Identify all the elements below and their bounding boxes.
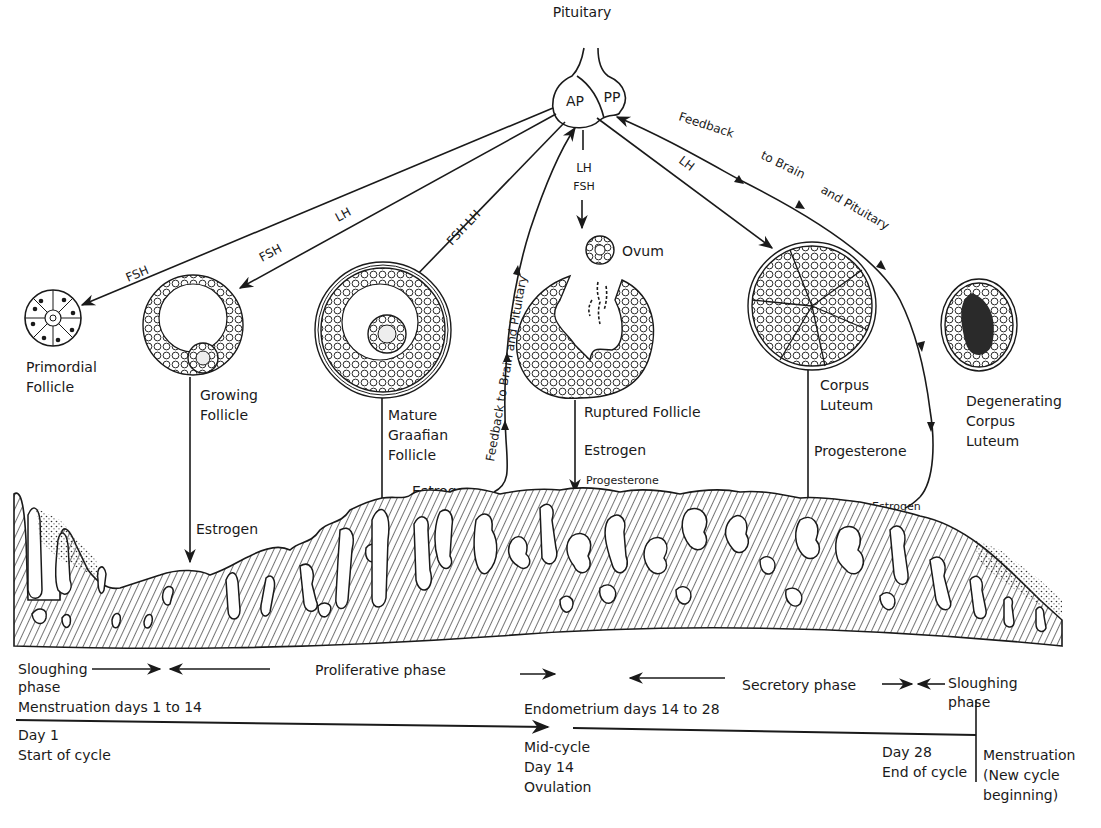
pituitary-gland: Pituitary AP PP bbox=[553, 4, 626, 128]
pituitary-label: Pituitary bbox=[553, 4, 611, 20]
sloughing-right-label-2: phase bbox=[948, 694, 990, 710]
sloughing-right-label-1: Sloughing bbox=[948, 675, 1018, 691]
endometrium-range-label: Endometrium days 14 to 28 bbox=[524, 701, 720, 717]
degenerating-corpus-luteum: Degenerating Corpus Luteum Estrogen bbox=[872, 279, 1062, 513]
mid-label-2: Day 14 bbox=[524, 759, 574, 775]
mature-label-3: Follicle bbox=[388, 447, 436, 463]
degenerating-label-3: Luteum bbox=[966, 433, 1019, 449]
corpus-luteum-label-1: Corpus bbox=[820, 377, 869, 393]
ruptured-label: Ruptured Follicle bbox=[584, 404, 701, 420]
fsh-lh-label-mature: FSH LH bbox=[444, 207, 483, 248]
corpus-luteum: Corpus Luteum Progesterone bbox=[748, 242, 907, 518]
new-cycle-label-2: (New cycle bbox=[983, 767, 1060, 783]
fsh-lh-arrow-to-growing bbox=[240, 114, 556, 288]
feedback-right-label-2: to Brain bbox=[759, 148, 808, 181]
growing-label-1: Growing bbox=[200, 387, 258, 403]
fsh-lh-arrow-to-mature bbox=[410, 122, 565, 282]
growing-estrogen-label: Estrogen bbox=[196, 521, 258, 537]
ruptured-progesterone-label: Progesterone bbox=[586, 474, 659, 487]
lh-label-growing: LH bbox=[333, 205, 353, 225]
primordial-label-1: Primordial bbox=[26, 359, 97, 375]
menstruation-range-label: Menstruation days 1 to 14 bbox=[18, 699, 202, 715]
growing-label-2: Follicle bbox=[200, 407, 248, 423]
fsh-label-ovum: FSH bbox=[573, 180, 594, 193]
primordial-label-2: Follicle bbox=[26, 379, 74, 395]
menstruation-timeline-arrow bbox=[16, 720, 548, 727]
end-label-1: Day 28 bbox=[882, 744, 932, 760]
growing-follicle: Growing Follicle Estrogen bbox=[143, 275, 258, 562]
sloughing-left-label-1: Sloughing bbox=[18, 661, 88, 677]
endometrium-band bbox=[14, 488, 1062, 648]
mature-graafian-follicle: Mature Graafian Follicle Estrogen bbox=[315, 262, 474, 527]
degenerating-label-1: Degenerating bbox=[966, 393, 1062, 409]
mature-label-1: Mature bbox=[388, 407, 437, 423]
mid-label-1: Mid-cycle bbox=[524, 739, 590, 755]
proliferative-label: Proliferative phase bbox=[315, 662, 446, 678]
start-label-1: Day 1 bbox=[18, 727, 59, 743]
endometrium-timeline-line bbox=[573, 728, 976, 735]
start-label-2: Start of cycle bbox=[18, 747, 111, 763]
menstrual-cycle-diagram: Pituitary AP PP FSH FSH LH FSH LH LH FSH… bbox=[0, 0, 1101, 828]
corpus-luteum-label-2: Luteum bbox=[820, 397, 873, 413]
degenerating-label-2: Corpus bbox=[966, 413, 1015, 429]
lh-label-ovum: LH bbox=[576, 161, 592, 175]
anterior-pituitary-label: AP bbox=[566, 93, 584, 109]
end-label-2: End of cycle bbox=[882, 764, 967, 780]
feedback-right-label-1: Feedback bbox=[677, 110, 736, 141]
secretory-label: Secretory phase bbox=[742, 677, 856, 693]
fsh-label-growing: FSH bbox=[257, 241, 284, 264]
new-cycle-label-1: Menstruation bbox=[983, 747, 1075, 763]
cycle-timeline: Menstruation days 1 to 14 Day 1 Start of… bbox=[16, 699, 1075, 803]
ovum-label: Ovum bbox=[622, 243, 664, 259]
sloughing-left-label-2: phase bbox=[18, 679, 60, 695]
new-cycle-label-3: beginning) bbox=[983, 787, 1058, 803]
primordial-follicle: Primordial Follicle bbox=[25, 290, 97, 395]
corpus-progesterone-label: Progesterone bbox=[814, 443, 907, 459]
ruptured-follicle: Ovum Ruptured Follicle Estrogen Progeste… bbox=[517, 236, 701, 492]
mature-label-2: Graafian bbox=[388, 427, 448, 443]
mid-label-3: Ovulation bbox=[524, 779, 591, 795]
lh-label-corpus: LH bbox=[676, 153, 697, 174]
posterior-pituitary-label: PP bbox=[604, 89, 621, 105]
feedback-right-label-3: and Pituitary bbox=[819, 182, 892, 232]
ruptured-estrogen-label: Estrogen bbox=[584, 442, 646, 458]
